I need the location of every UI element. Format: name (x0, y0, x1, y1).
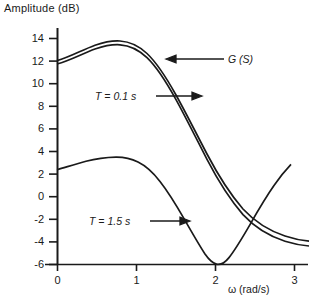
amplitude-bode-chart: Amplitude (dB) (0, 0, 313, 296)
t-0-1-label: T = 0.1 s (95, 90, 136, 102)
g-s-arrow (166, 55, 224, 63)
y-tick-label: 14 (18, 32, 44, 44)
x-tick-marks (58, 265, 295, 272)
t-1-5-label: T = 1.5 s (89, 215, 130, 227)
y-tick-label: -4 (18, 235, 44, 247)
x-tick-label: 0 (48, 274, 68, 286)
g-s-label: G (S) (228, 53, 253, 65)
y-tick-label: 8 (18, 100, 44, 112)
x-tick-label: 1 (127, 274, 147, 286)
y-tick-label: -6 (18, 258, 44, 270)
y-tick-label: 0 (18, 190, 44, 202)
x-tick-label: 3 (285, 274, 305, 286)
curve-t-1-5 (57, 157, 291, 264)
t-0-1-arrow (156, 92, 202, 100)
plot-canvas (0, 0, 313, 296)
y-tick-label: -2 (18, 213, 44, 225)
y-tick-label: 10 (18, 77, 44, 89)
y-tick-label: 6 (18, 122, 44, 134)
t-1-5-arrow (150, 217, 190, 225)
y-tick-label: 4 (18, 145, 44, 157)
y-tick-label: 2 (18, 168, 44, 180)
x-tick-label: 2 (206, 274, 226, 286)
y-tick-marks (49, 39, 57, 265)
curve-g-s (57, 41, 309, 241)
x-axis-label: ω (rad/s) (228, 283, 269, 295)
y-tick-label: 12 (18, 55, 44, 67)
